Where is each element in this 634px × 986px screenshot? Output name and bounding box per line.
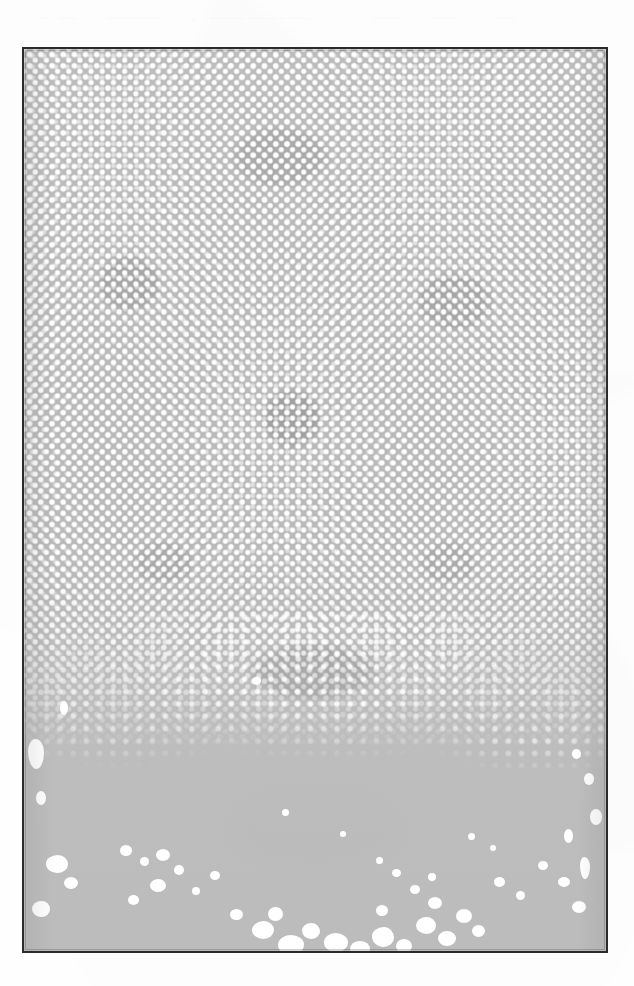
- ghost-fragment: ——————: [106, 13, 162, 23]
- plate-base-tone: [24, 49, 606, 951]
- ghost-fragment: —: [39, 13, 48, 23]
- halftone-plate-frame: [22, 47, 608, 953]
- ghost-fragment: ·: [26, 14, 29, 23]
- ghost-fragment: —: [191, 14, 199, 23]
- ghost-fragment: ———: [429, 13, 457, 23]
- scanned-page: · — —— —————— — ———— ——— ———→ ——— ——— ——…: [0, 0, 634, 986]
- ghost-fragment: ——: [58, 13, 77, 23]
- ghost-fragment: ———— ——— ———→: [209, 13, 316, 23]
- ghost-fragment: ——: [497, 13, 516, 23]
- ghost-fragment: ———: [372, 13, 400, 23]
- ghost-fragment: ·: [572, 14, 575, 23]
- header-ghost-text: · — —— —————— — ———— ——— ———→ ——— ——— ——…: [0, 9, 634, 27]
